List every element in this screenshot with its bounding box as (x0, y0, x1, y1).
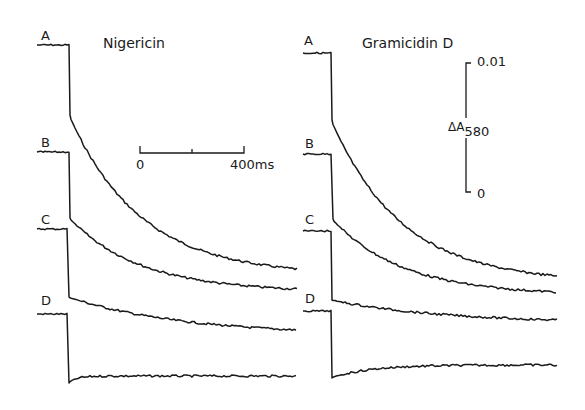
trace-label-a-left: A (41, 29, 50, 42)
trace-gramicidin-d-a (303, 52, 557, 276)
panel-title-nigericin: Nigericin (103, 36, 165, 50)
kinetics-figure: Nigericin A B C D Gramicidin D A B C D 0… (0, 0, 585, 410)
time-scale-bar (140, 146, 244, 153)
trace-label-d-left: D (41, 294, 51, 307)
time-scale-end: 400ms (230, 158, 274, 171)
trace-label-b-right: B (305, 137, 314, 150)
trace-gramicidin-d-b (303, 153, 556, 293)
abs-axis-label: ΔA580 (448, 120, 489, 133)
trace-nigericin-d (37, 313, 296, 383)
trace-gramicidin-d-c (303, 230, 557, 320)
time-scale-zero: 0 (136, 158, 144, 171)
trace-label-d-right: D (305, 292, 315, 305)
trace-label-c-left: C (41, 213, 50, 226)
trace-label-b-left: B (41, 136, 50, 149)
panel-title-gramicidin-d: Gramicidin D (362, 36, 453, 50)
trace-gramicidin-d-d (303, 310, 557, 378)
trace-nigericin-c (37, 228, 296, 330)
trace-label-c-right: C (305, 213, 314, 226)
trace-label-a-right: A (304, 34, 313, 47)
abs-scale-bottom: 0 (477, 187, 485, 200)
abs-scale-top: 0.01 (477, 55, 506, 68)
